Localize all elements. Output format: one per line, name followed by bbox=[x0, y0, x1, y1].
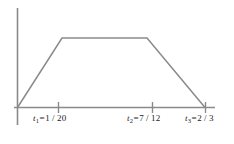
tick-label-t2-value: 7 / 12 bbox=[139, 113, 160, 123]
tick-label-t2: t2=7 / 12 bbox=[127, 113, 160, 123]
pulse-curve bbox=[18, 38, 206, 108]
tick-label-t3: t3=2 / 3 bbox=[185, 113, 214, 123]
figure-container: t1=1 / 20 t2=7 / 12 t3=2 / 3 bbox=[0, 0, 234, 144]
tick-label-t3-value: 2 / 3 bbox=[197, 113, 214, 123]
tick-label-t2-subscript: 2 bbox=[130, 117, 133, 124]
tick-label-t1: t1=1 / 20 bbox=[33, 113, 66, 123]
tick-label-t1-value: 1 / 20 bbox=[45, 113, 66, 123]
tick-label-t3-subscript: 3 bbox=[188, 117, 191, 124]
tick-label-t1-subscript: 1 bbox=[36, 117, 39, 124]
